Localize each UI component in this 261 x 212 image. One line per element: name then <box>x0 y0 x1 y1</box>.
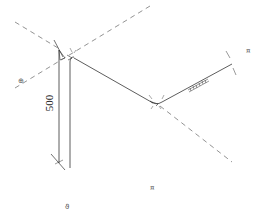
pipe-start-tick-a <box>70 48 72 52</box>
pipe-run-descending <box>74 58 153 103</box>
elbow-tick-2 <box>162 95 164 99</box>
pipe-run-ascending <box>162 64 232 102</box>
spring-coil-icon <box>188 79 209 92</box>
centerline-descending-lower <box>160 106 232 162</box>
pipe-vertical <box>70 57 74 168</box>
pipe-start-tick-b <box>74 50 76 53</box>
end-mark-upper <box>226 51 230 58</box>
elbow-tick-3 <box>151 106 153 109</box>
pipe-start-arrow <box>67 55 72 60</box>
centerline-descending-upper <box>15 22 58 48</box>
marker-bottom-left-icon: ϑ <box>65 204 69 211</box>
end-mark-lower <box>233 68 236 75</box>
pipe-drawing-canvas <box>0 0 261 212</box>
marker-right-icon: ¤ <box>246 48 250 55</box>
centerline-ascending <box>15 6 150 88</box>
dimension-label: 500 <box>43 95 55 112</box>
dimension-tick-top <box>54 40 63 57</box>
dimension-tick-bottom <box>51 154 65 170</box>
marker-bottom-center-icon: ¤ <box>150 185 154 192</box>
marker-left-icon: ⊕ <box>18 78 24 85</box>
elbow-tick-1 <box>149 95 152 99</box>
